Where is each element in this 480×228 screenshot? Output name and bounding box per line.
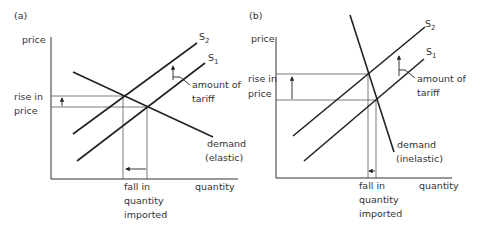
panel-b-quantity-fall-label-3: imported	[359, 208, 402, 219]
panel-b-quantity-fall-label-2: quantity	[359, 194, 399, 205]
panel-b-demand-label-2: (inelastic)	[396, 153, 443, 164]
panel-b-tariff-label-1: amount of	[417, 73, 466, 84]
panel-a-tariff-label-2: tariff	[192, 93, 215, 104]
panel-a-supply-curve-s1	[77, 63, 205, 161]
panel-a-label: (a)	[14, 10, 27, 21]
panel-b-s2-label: S2	[425, 18, 436, 32]
panel-a-tariff-label-1: amount of	[192, 79, 241, 90]
panel-a-x-axis-label: quantity	[195, 181, 235, 192]
panel-b-price-rise-label-2: price	[248, 88, 272, 99]
panel-b-s1-label: S1	[426, 46, 437, 60]
panel-a-price-rise-label-2: price	[14, 105, 38, 116]
panel-b-label: (b)	[249, 10, 262, 21]
panel-b-y-axis-label: price	[251, 33, 275, 44]
panel-b-tariff-label-2: tariff	[417, 87, 440, 98]
panel-a-demand-label-1: demand	[207, 138, 246, 149]
panel-b: (b) price quantity S2 S1 amount of tarif…	[248, 10, 466, 219]
panel-a-quantity-fall-label-2: quantity	[124, 195, 164, 206]
panel-b-x-axis-label: quantity	[419, 180, 459, 191]
panel-a-quantity-fall-label-1: fall in	[124, 181, 150, 192]
panel-b-quantity-fall-label-1: fall in	[359, 180, 385, 191]
panel-a-s2-label: S2	[199, 31, 210, 45]
panel-a-price-rise-label-1: rise in	[14, 91, 43, 102]
panel-a-y-axis-label: price	[22, 34, 46, 45]
panel-a-demand-label-2: (elastic)	[205, 152, 243, 163]
panel-a-s1-label: S1	[208, 52, 219, 66]
tariff-diagram: (a) price quantity S2 S1 amount of tarif…	[0, 0, 480, 228]
panel-a-quantity-fall-label-3: imported	[124, 209, 167, 220]
panel-b-price-rise-label-1: rise in	[248, 73, 277, 84]
panel-b-demand-label-1: demand	[397, 139, 436, 150]
panel-a: (a) price quantity S2 S1 amount of tarif…	[14, 10, 246, 220]
